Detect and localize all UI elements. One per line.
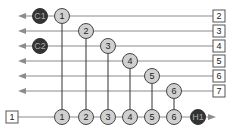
pipeline-diagram: 1234567123456123456C1C2H1 <box>0 0 238 136</box>
arrow-left-icon <box>18 43 26 49</box>
output-box-label: 4 <box>216 41 221 51</box>
output-box-label: 6 <box>216 71 221 81</box>
arrow-left-icon <box>18 28 26 34</box>
bottom-node-label: 4 <box>127 112 132 122</box>
arrow-left-icon <box>18 58 26 64</box>
arrow-left-icon <box>18 73 26 79</box>
output-box-label: 5 <box>216 56 221 66</box>
dark-node-label: C1 <box>34 11 46 21</box>
process-node-label: 5 <box>149 71 154 81</box>
arrow-left-icon <box>18 88 26 94</box>
dark-node-label: C2 <box>34 41 46 51</box>
bottom-node-label: 2 <box>83 112 88 122</box>
arrow-left-icon <box>18 13 26 19</box>
bottom-node-label: 6 <box>171 112 176 122</box>
output-box-label: 2 <box>216 11 221 21</box>
bottom-node-label: 5 <box>149 112 154 122</box>
process-node-label: 1 <box>59 11 64 21</box>
diagram-canvas: 1234567123456123456C1C2H1 <box>0 0 238 136</box>
arrow-right-icon <box>208 114 216 120</box>
dark-node-label: H1 <box>192 112 204 122</box>
process-node-label: 6 <box>171 86 176 96</box>
process-node-label: 4 <box>127 56 132 66</box>
process-node-label: 2 <box>83 26 88 36</box>
input-box-label: 1 <box>9 112 14 122</box>
process-node-label: 3 <box>105 41 110 51</box>
output-box-label: 3 <box>216 26 221 36</box>
output-box-label: 7 <box>216 86 221 96</box>
bottom-node-label: 3 <box>105 112 110 122</box>
bottom-node-label: 1 <box>59 112 64 122</box>
